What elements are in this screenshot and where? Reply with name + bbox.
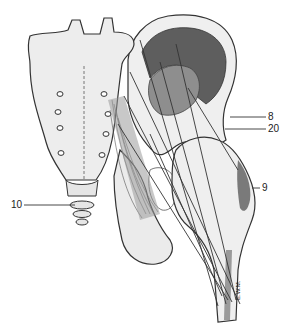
- label-8: 8: [268, 112, 274, 122]
- label-10: 10: [11, 200, 22, 210]
- label-9: 9: [262, 183, 268, 193]
- coccyx: [66, 180, 98, 225]
- label-20: 20: [268, 124, 279, 134]
- anatomy-illustration: E.W.M.: [0, 0, 291, 331]
- artist-signature: E.W.M.: [235, 280, 241, 300]
